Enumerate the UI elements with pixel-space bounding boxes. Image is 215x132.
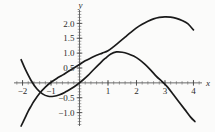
x-axis-label: x (205, 78, 210, 88)
y-tick-label: 1.0 (63, 48, 75, 58)
x-tick-label: 2 (134, 86, 139, 96)
y-tick-label: 0.5 (63, 63, 75, 73)
y-tick-label: −1.0 (58, 108, 75, 118)
figure-container: −2−11234 2.01.51.00.5−0.5−1.0 x y (0, 0, 215, 132)
x-tick-label: −1 (46, 86, 56, 96)
y-tick-label: 2.0 (63, 19, 75, 29)
x-tick-label: 3 (163, 86, 168, 96)
plot-svg: −2−11234 2.01.51.00.5−0.5−1.0 x y (0, 0, 215, 132)
x-tick-label: 4 (191, 86, 196, 96)
y-axis-label: y (78, 0, 83, 10)
x-tick-label: 1 (106, 86, 111, 96)
y-tick-label: −0.5 (58, 93, 75, 103)
x-tick-label: −2 (18, 86, 28, 96)
y-tick-label: 1.5 (63, 33, 75, 43)
